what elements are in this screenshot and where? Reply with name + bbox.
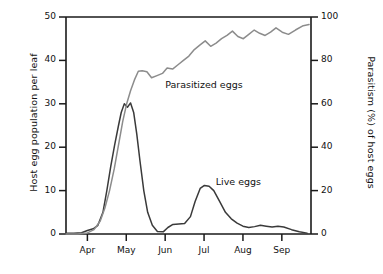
series-line-1 [66, 25, 309, 234]
chart-figure: Host egg population per leaf Parasitism … [0, 0, 383, 274]
plot-area [0, 0, 383, 274]
